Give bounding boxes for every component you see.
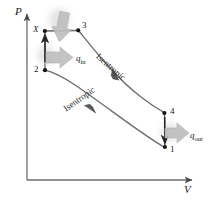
- state-point-3: [76, 28, 80, 32]
- heat-label-q-out: qout: [190, 131, 203, 142]
- state-point-2: [43, 68, 47, 72]
- pv-diagram-figure: P V X 3 2 4 1 qin qout Isentropic Isentr…: [0, 0, 208, 208]
- state-label-2: 2: [34, 65, 39, 74]
- state-point-4: [162, 111, 166, 115]
- q-in-subscript: in: [81, 58, 86, 65]
- state-point-1: [163, 145, 167, 149]
- axes-group: [27, 14, 192, 180]
- q-out-subscript: out: [195, 135, 203, 142]
- state-point-X: [43, 29, 47, 33]
- heat-label-q-in: qin: [76, 54, 86, 65]
- direction-arrow-1-to-2: [84, 104, 97, 115]
- pressure-axis-label: P: [15, 6, 22, 17]
- state-label-4: 4: [170, 107, 175, 116]
- volume-axis-label: V: [184, 184, 191, 195]
- process-paths-group: [45, 31, 165, 148]
- state-points-group: [43, 28, 167, 149]
- diagram-canvas: [0, 0, 208, 208]
- state-label-3: 3: [82, 21, 87, 30]
- state-label-1: 1: [170, 145, 175, 154]
- state-label-X: X: [33, 25, 39, 34]
